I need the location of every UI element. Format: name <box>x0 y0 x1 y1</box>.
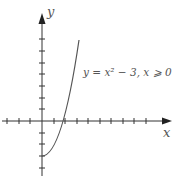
equation-label: y = x² − 3, x ⩾ 0 <box>83 66 172 78</box>
x-axis-arrow-icon <box>162 118 172 125</box>
y-axis <box>39 20 45 176</box>
parabola-curve <box>42 40 79 156</box>
y-axis-label: y <box>47 4 54 19</box>
y-axis-arrow-icon <box>39 13 46 24</box>
x-axis <box>2 118 166 124</box>
graph-canvas <box>0 0 174 178</box>
x-axis-label: x <box>163 125 170 140</box>
